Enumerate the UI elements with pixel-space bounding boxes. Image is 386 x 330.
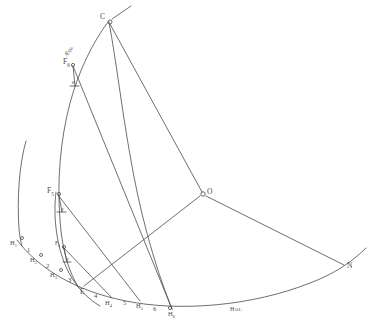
label-tick-5: 5 <box>123 300 126 307</box>
ray-f5-h5 <box>58 195 140 301</box>
tick-above-c <box>112 6 131 19</box>
label-point-f5: F5 <box>47 187 54 197</box>
ray-o-e <box>84 196 200 286</box>
arc-outer-left <box>18 141 26 246</box>
point-marker-h3 <box>60 269 63 272</box>
label-point-e: E <box>80 288 85 296</box>
label-tick-1: 1 <box>27 247 30 254</box>
label-e-mark-4: e <box>66 257 68 263</box>
label-tick-4: 4 <box>94 293 97 300</box>
point-marker-h1 <box>21 237 24 240</box>
arc-meridian-right <box>109 22 172 309</box>
label-point-n: N <box>347 262 352 270</box>
label-point-c: C <box>100 13 105 21</box>
label-e-mark-5: e <box>61 207 63 213</box>
label-point-h3: H3 <box>50 272 57 281</box>
point-marker-h2 <box>40 254 43 257</box>
label-point-f4: F4 <box>55 241 60 249</box>
label-tick-3: 3 <box>68 277 71 284</box>
label-point-f6: F6 <box>63 58 70 68</box>
ray-o-n <box>206 196 344 265</box>
label-point-h4: H4 <box>105 300 112 309</box>
label-point-h1: H1 <box>10 240 17 249</box>
label-point-h6: H6 <box>168 311 175 320</box>
label-e-mark-6: e <box>72 80 74 86</box>
label-tick-6: 6 <box>153 306 156 313</box>
label-point-o: O <box>207 188 212 196</box>
label-point-h5: H5 <box>136 303 143 312</box>
label-tick-2: 2 <box>46 263 49 270</box>
ray-c-o <box>110 24 202 192</box>
label-horizon: Hor. <box>230 306 243 312</box>
label-point-h2: H2 <box>30 257 37 266</box>
point-marker-o <box>201 192 205 196</box>
construction-diagram <box>0 0 386 330</box>
